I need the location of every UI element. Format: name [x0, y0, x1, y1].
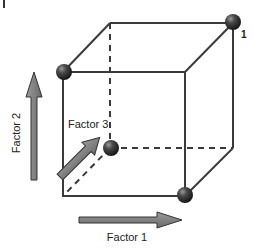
factorial-cube-diagram: 1 Factor 2 Factor 3 Factor 1 [0, 0, 253, 251]
design-point-back-bottom-left [103, 140, 119, 156]
factor3-label: Factor 3 [68, 118, 108, 130]
panel-mark [3, 0, 5, 8]
factor2-label: Factor 2 [10, 113, 22, 153]
factor3-arrow [54, 131, 106, 183]
cube-visible-edges [63, 23, 233, 196]
design-point-back-top-right [225, 14, 241, 30]
factor2-arrow [26, 72, 42, 180]
corner-label: 1 [241, 29, 247, 40]
factor1-arrow [79, 212, 182, 228]
factor1-label: Factor 1 [107, 231, 147, 243]
design-point-front-bottom-right [177, 187, 193, 203]
design-point-front-top-left [56, 64, 72, 80]
